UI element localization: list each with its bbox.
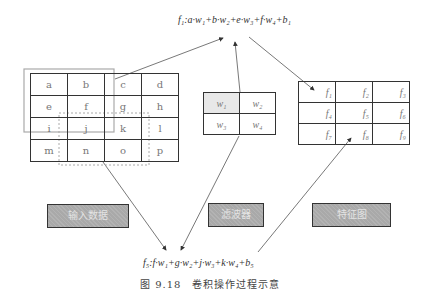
- formula-f5: f₅:f·w₁+g·w₂+j·w₃+k·w₄+b₅: [143, 257, 254, 268]
- grid-cell: a: [31, 74, 68, 96]
- grid-cell: f₇: [299, 124, 336, 145]
- grid-cell: e: [31, 96, 68, 118]
- grid-cell: f₆: [373, 103, 410, 124]
- grid-row: f₄ f₅ f₆: [299, 103, 410, 124]
- grid-row: e f g h: [31, 96, 179, 118]
- grid-cell: c: [105, 74, 142, 96]
- grid-cell: f₅: [336, 103, 373, 124]
- grid-cell: h: [142, 96, 179, 118]
- figure-caption: 图 9.18 卷积操作过程示意: [140, 276, 280, 291]
- grid-cell: o: [105, 140, 142, 162]
- grid-row: w₃ w₄: [204, 114, 276, 135]
- grid-row: f₁ f₂ f₃: [299, 82, 410, 103]
- grid-row: f₇ f₈ f₉: [299, 124, 410, 145]
- grid-cell: b: [68, 74, 105, 96]
- grid-cell: g: [105, 96, 142, 118]
- input-data-grid: a b c d e f g h i j k l m n o p: [30, 73, 179, 162]
- grid-cell: w₁: [204, 93, 240, 114]
- grid-cell: m: [31, 140, 68, 162]
- filter-grid: w₁ w₂ w₃ w₄: [203, 92, 276, 135]
- feature-map-label: 特征图: [312, 203, 391, 227]
- grid-cell: f₂: [336, 82, 373, 103]
- grid-cell: f₈: [336, 124, 373, 145]
- feature-map-grid: f₁ f₂ f₃ f₄ f₅ f₆ f₇ f₈ f₉: [298, 81, 410, 145]
- grid-cell: l: [142, 118, 179, 140]
- grid-cell: f₁: [299, 82, 336, 103]
- grid-cell: w₃: [204, 114, 240, 135]
- grid-cell: n: [68, 140, 105, 162]
- input-data-label: 输入数据: [47, 204, 129, 228]
- grid-cell: w₄: [240, 114, 276, 135]
- grid-cell: d: [142, 74, 179, 96]
- grid-cell: f: [68, 96, 105, 118]
- grid-cell: f₉: [373, 124, 410, 145]
- grid-cell: w₂: [240, 93, 276, 114]
- grid-cell: k: [105, 118, 142, 140]
- grid-cell: f₃: [373, 82, 410, 103]
- grid-row: a b c d: [31, 74, 179, 96]
- grid-cell: j: [68, 118, 105, 140]
- grid-cell: f₄: [299, 103, 336, 124]
- formula-f1: f₁:a·w₁+b·w₂+e·w₃+f·w₄+b₁: [178, 14, 291, 25]
- grid-row: i j k l: [31, 118, 179, 140]
- grid-cell: p: [142, 140, 179, 162]
- grid-row: m n o p: [31, 140, 179, 162]
- grid-row: w₁ w₂: [204, 93, 276, 114]
- grid-cell: i: [31, 118, 68, 140]
- filter-label: 滤波器: [208, 203, 264, 227]
